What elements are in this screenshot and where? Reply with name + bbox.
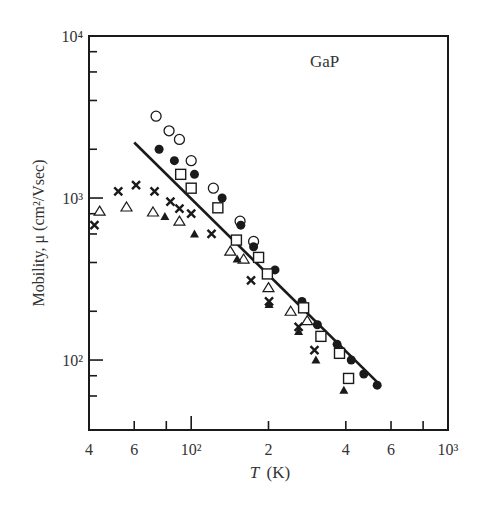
- open-square-marker: [299, 303, 309, 313]
- y-tick-label: 10²: [62, 352, 83, 369]
- open-square-marker: [231, 235, 241, 245]
- filled-circle-marker: [359, 370, 368, 379]
- open-square-marker: [344, 373, 354, 383]
- filled-circle-marker: [249, 242, 258, 251]
- y-tick-label: 10⁴: [61, 28, 83, 45]
- x-tick-label: 6: [387, 441, 395, 458]
- x-tick-label: 10²: [181, 441, 202, 458]
- x-tick-label: 6: [130, 441, 138, 458]
- open-square-marker: [262, 269, 272, 279]
- open-square-marker: [316, 331, 326, 341]
- open-circle-marker: [151, 111, 161, 121]
- open-square-marker: [186, 183, 196, 193]
- x-tick-label: 2: [265, 441, 273, 458]
- filled-circle-marker: [373, 381, 382, 390]
- x-tick-label: 4: [342, 441, 350, 458]
- filled-circle-marker: [170, 156, 179, 165]
- open-square-marker: [176, 169, 186, 179]
- y-tick-label: 10³: [62, 190, 83, 207]
- open-circle-marker: [208, 183, 218, 193]
- filled-circle-marker: [155, 145, 164, 154]
- filled-circle-marker: [190, 170, 199, 179]
- open-square-marker: [334, 348, 344, 358]
- x-axis-label-variable: T: [250, 463, 261, 482]
- y-axis-label: Mobility, μ (cm²/Vsec): [30, 160, 48, 307]
- filled-circle-marker: [333, 340, 342, 349]
- x-axis-label-unit: (K): [267, 463, 291, 482]
- material-label: GaP: [310, 52, 339, 71]
- filled-circle-marker: [236, 221, 245, 230]
- open-square-marker: [254, 252, 264, 262]
- x-axis-label: T (K): [250, 463, 290, 482]
- x-tick-label: 4: [85, 441, 93, 458]
- open-circle-marker: [186, 156, 196, 166]
- x-tick-label: 10³: [438, 441, 459, 458]
- open-circle-marker: [174, 134, 184, 144]
- mobility-vs-temperature-chart: 4610²24610³ 10⁴10³10² GaP T (K) Mobility…: [0, 0, 484, 515]
- filled-circle-marker: [313, 320, 322, 329]
- filled-circle-marker: [218, 194, 227, 203]
- open-circle-marker: [164, 126, 174, 136]
- open-square-marker: [213, 203, 223, 213]
- filled-circle-marker: [347, 356, 356, 365]
